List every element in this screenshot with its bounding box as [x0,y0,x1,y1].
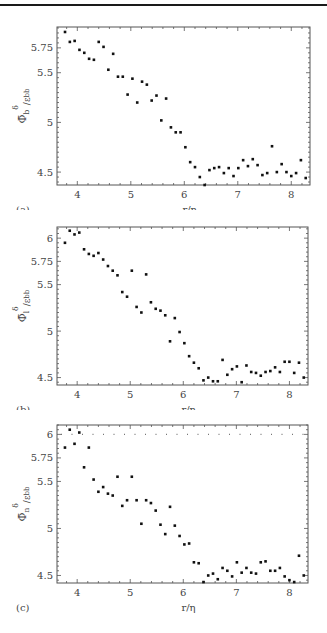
data-point [283,575,286,578]
data-point [212,572,215,575]
data-point [193,361,196,364]
data-point [165,97,168,100]
panel-tag: (c) [16,602,30,613]
data-point [302,574,305,577]
data-point [112,53,115,56]
y-tick-label: 5 [47,523,53,534]
data-point [64,242,67,245]
y-tick-label: 5.75 [31,452,53,463]
y-tick-label: 4.5 [37,167,53,178]
data-point [88,57,91,60]
x-tick-label: 6 [180,587,186,598]
data-point [164,533,167,536]
data-point [174,131,177,134]
data-point [279,567,282,570]
data-point [259,374,262,377]
data-point [269,569,272,572]
data-point [285,171,288,174]
x-tick-label: 6 [180,389,186,400]
data-point [169,340,172,343]
data-point [293,581,296,584]
data-point [247,165,250,168]
data-point [73,40,76,43]
data-point [261,174,264,177]
plot-frame [57,27,310,185]
data-point [300,159,303,162]
data-point [131,77,134,80]
data-point [259,561,262,564]
data-point [150,502,153,505]
data-point [280,163,283,166]
data-point [207,376,210,379]
data-point [226,569,229,572]
data-point [290,175,293,178]
data-point [154,307,157,310]
y-tick-label: 6 [47,429,53,440]
data-point [116,475,119,478]
data-point [179,131,182,134]
y-tick-label: 5 [47,326,53,337]
data-point [197,562,200,565]
data-point [183,543,186,546]
y-tick-label: 5.5 [37,67,53,78]
data-point [102,46,105,49]
data-point [64,446,67,449]
data-point [276,171,279,174]
data-point [170,126,173,129]
y-axis-label: Φ̄nδ/εbb [11,486,32,522]
data-point [126,295,129,298]
x-tick-label: 7 [233,389,239,400]
y-axis-label: Φ̄lδ/εbb [11,289,32,322]
data-points [64,31,307,187]
data-point [203,184,206,187]
data-point [199,176,202,179]
data-point [298,554,301,557]
data-point [302,376,305,379]
data-point [189,161,192,164]
data-point [231,575,234,578]
data-point [164,314,167,317]
data-point [145,499,148,502]
data-point [216,380,219,383]
data-point [221,567,224,570]
data-point [131,269,134,272]
data-point [78,49,81,52]
data-point [117,75,120,78]
data-point [240,381,243,384]
data-point [107,492,110,495]
y-tick-label: 5.5 [37,476,53,487]
data-point [283,360,286,363]
data-point [126,499,129,502]
data-point [245,567,248,570]
data-point [264,560,267,563]
data-point [121,505,124,508]
data-point [78,431,81,434]
data-point [295,172,298,175]
data-point [274,366,277,369]
data-point [174,524,177,527]
data-point [250,371,253,374]
data-point [174,317,177,320]
data-point [83,248,86,251]
data-point [193,561,196,564]
data-point [107,265,110,268]
data-point [159,309,162,312]
data-point [237,167,240,170]
data-point [111,269,114,272]
x-tick-label: 8 [286,587,292,598]
data-point [97,252,100,255]
data-point [136,101,139,104]
data-point [140,311,143,314]
data-point [269,370,272,373]
data-point [251,158,254,161]
data-point [232,175,235,178]
x-tick-label: 8 [286,389,292,400]
data-point [242,159,245,162]
data-point [231,368,234,371]
data-point [188,355,191,358]
data-point [212,380,215,383]
data-point [140,522,143,525]
data-point [141,80,144,83]
y-tick-label: 5.5 [37,279,53,290]
data-point [97,41,100,44]
